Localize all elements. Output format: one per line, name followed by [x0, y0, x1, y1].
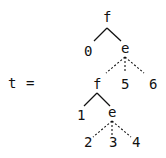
node-e-lower: e	[108, 104, 116, 120]
equation-operator: =	[26, 75, 34, 91]
node-1: 1	[77, 107, 85, 123]
node-4: 4	[132, 134, 140, 150]
edge-f-1	[84, 93, 97, 106]
node-6: 6	[149, 76, 157, 92]
edge-e-6	[125, 57, 144, 73]
equation-lhs: t	[8, 75, 16, 91]
tree-nodes: f 0 e f 5 6 1 e 2 3 4	[77, 9, 157, 150]
node-2: 2	[84, 134, 92, 150]
node-root-f: f	[103, 9, 111, 25]
tree-diagram: t = f 0 e f 5 6 1 e 2 3 4	[0, 0, 166, 158]
edge-root-0	[94, 28, 107, 41]
node-f-lower: f	[93, 76, 101, 92]
edge-e-f	[106, 57, 125, 73]
node-0: 0	[84, 43, 92, 59]
edge-root-e	[107, 28, 121, 41]
node-3: 3	[109, 134, 117, 150]
node-5: 5	[121, 76, 129, 92]
node-e-upper: e	[121, 40, 129, 56]
